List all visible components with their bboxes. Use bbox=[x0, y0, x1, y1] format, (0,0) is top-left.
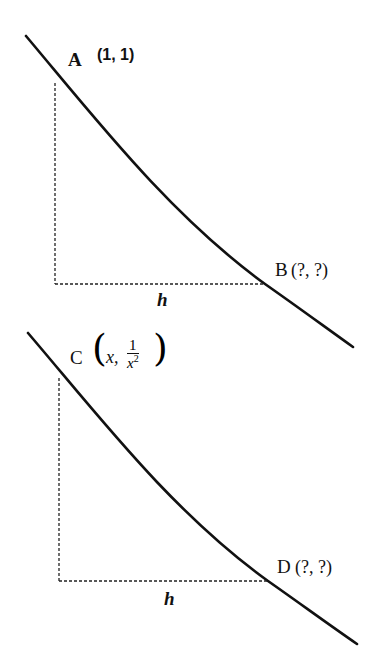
point-b-coords: (?, ?) bbox=[291, 261, 328, 279]
width-label-bottom: h bbox=[164, 589, 175, 608]
curve-bottom bbox=[28, 333, 357, 644]
point-a-letter: A bbox=[68, 50, 82, 69]
point-d-letter: D bbox=[277, 557, 291, 576]
fraction-exponent: 2 bbox=[134, 353, 139, 364]
bottom-panel bbox=[28, 333, 357, 644]
point-c-fraction: 1 x2 bbox=[127, 338, 139, 371]
fraction-numerator: 1 bbox=[127, 338, 139, 354]
top-panel bbox=[26, 36, 353, 347]
paren-open: ( bbox=[92, 329, 107, 367]
point-c-x: x, bbox=[106, 348, 119, 366]
fraction-denominator-base: x bbox=[127, 355, 134, 371]
paren-close: ) bbox=[153, 329, 168, 367]
point-c-letter: C bbox=[70, 348, 83, 367]
curve-top bbox=[26, 36, 353, 347]
point-b-letter: B bbox=[275, 260, 288, 279]
width-label-top: h bbox=[157, 290, 168, 309]
point-a-coords: (1, 1) bbox=[97, 47, 134, 63]
point-d-coords: (?, ?) bbox=[295, 558, 332, 576]
fraction-denominator: x2 bbox=[127, 354, 139, 371]
